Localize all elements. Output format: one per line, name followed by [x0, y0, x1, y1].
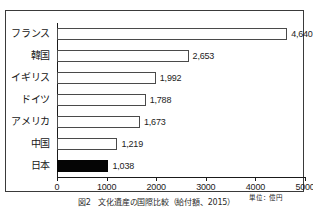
x-tick — [156, 177, 157, 181]
x-tick-label: 3000 — [186, 182, 226, 192]
x-tick-label: 2000 — [136, 182, 176, 192]
category-label: 中国 — [0, 133, 50, 155]
x-tick — [255, 177, 256, 181]
x-tick-label: 5000 — [285, 182, 313, 192]
x-tick — [107, 177, 108, 181]
x-tick — [206, 177, 207, 181]
x-axis-line — [57, 177, 305, 178]
bar-row: ドイツ1,788 — [6, 89, 304, 111]
category-label: イギリス — [0, 67, 50, 89]
chart-frame: フランス4,640韓国2,653イギリス1,992ドイツ1,788アメリカ1,6… — [5, 10, 304, 192]
bar-row: フランス4,640 — [6, 23, 304, 45]
bar — [57, 116, 140, 128]
x-tick — [57, 177, 58, 181]
bar-value-label: 1,038 — [112, 160, 134, 172]
figure-caption: 図2 文化遺産の国際比較（給付額、2015） — [0, 196, 313, 207]
bar-value-label: 1,992 — [160, 72, 182, 84]
bar-value-label: 1,788 — [150, 94, 172, 106]
x-tick-label: 1000 — [87, 182, 127, 192]
bar-row: アメリカ1,673 — [6, 111, 304, 133]
bar — [57, 72, 156, 84]
bar-value-label: 4,640 — [291, 28, 313, 40]
bar — [57, 50, 189, 62]
category-label: 韓国 — [0, 45, 50, 67]
bar-row: 韓国2,653 — [6, 45, 304, 67]
bar-chart-figure: フランス4,640韓国2,653イギリス1,992ドイツ1,788アメリカ1,6… — [0, 0, 313, 210]
bar-row: イギリス1,992 — [6, 67, 304, 89]
bar — [57, 160, 108, 172]
x-tick-label: 0 — [37, 182, 77, 192]
category-label: アメリカ — [0, 111, 50, 133]
category-label: ドイツ — [0, 89, 50, 111]
bar — [57, 28, 287, 40]
bar-value-label: 1,673 — [144, 116, 166, 128]
bar-value-label: 2,653 — [193, 50, 215, 62]
bar — [57, 138, 117, 150]
plot-area: フランス4,640韓国2,653イギリス1,992ドイツ1,788アメリカ1,6… — [6, 11, 303, 191]
category-label: フランス — [0, 23, 50, 45]
x-tick-label: 4000 — [235, 182, 275, 192]
bar-value-label: 1,219 — [121, 138, 143, 150]
category-label: 日本 — [0, 155, 50, 177]
bar-row: 日本1,038 — [6, 155, 304, 177]
bar-row: 中国1,219 — [6, 133, 304, 155]
bar — [57, 94, 146, 106]
x-tick — [305, 177, 306, 181]
